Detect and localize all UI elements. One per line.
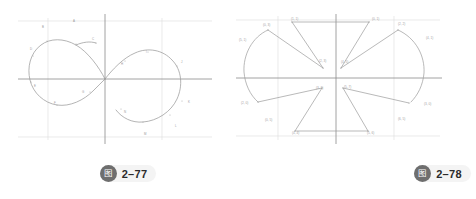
point-label: (1, 1) (291, 17, 298, 21)
point-label: A (73, 19, 75, 23)
point-marker (182, 101, 183, 102)
point-label: D (30, 47, 32, 51)
curve-right-loop (105, 50, 181, 122)
point-label: (0, 1) (372, 17, 379, 21)
wedge-upper-right-arc (398, 30, 424, 102)
point-label: (2, 2) (398, 22, 405, 26)
point-label-group: A B C D E F G H I J K L M N (30, 19, 190, 136)
point-label: (2, 3) (319, 59, 326, 63)
point-marker (322, 67, 323, 68)
point-label: M (144, 132, 147, 136)
point-label: (3, 0) (424, 102, 431, 106)
point-marker (96, 43, 97, 44)
point-marker (125, 61, 126, 62)
point-marker (90, 92, 91, 93)
point-marker (148, 52, 149, 53)
wedge-lower-right-segment-a (343, 88, 368, 131)
point-marker (257, 101, 258, 102)
point-marker (121, 109, 122, 110)
four-wedge-diagram: (1, 1) (0, 1) (2, 3) (4, 5) (2, 2) (0, 3… (228, 0, 457, 152)
point-label: H (121, 62, 123, 66)
wedge-lower-left-segment-b (295, 88, 322, 131)
point-label: L (175, 124, 177, 128)
figure-2-78-caption: 图 2–78 (228, 152, 476, 199)
point-label: B (42, 25, 44, 29)
caption-pill: 图 2–77 (100, 165, 157, 182)
curve-left-loop (29, 40, 105, 106)
figure-2-78-plot: (1, 1) (0, 1) (2, 3) (4, 5) (2, 2) (0, 3… (228, 0, 457, 152)
point-label: (2, 0) (241, 101, 248, 105)
point-label: I (146, 50, 147, 54)
point-label: E (34, 84, 36, 88)
wedge-upper-left-arc (244, 30, 268, 102)
point-label: (5, 1) (239, 38, 246, 42)
point-marker (57, 105, 58, 106)
figure-2-77: A B C D E F G H I J K L M N 图 (0, 0, 228, 199)
point-label: (6, 5) (398, 117, 405, 121)
point-marker (368, 21, 369, 22)
point-marker (47, 41, 48, 42)
figure-2-77-caption: 图 2–77 (0, 152, 242, 199)
figure-badge-icon: 图 (414, 165, 431, 182)
point-label: J (181, 60, 183, 64)
figure-2-77-plot: A B C D E F G H I J K L M N (0, 0, 228, 152)
point-label: (4, 1) (426, 36, 433, 40)
point-markers (31, 41, 183, 123)
point-label: K (188, 100, 190, 104)
point-label: F (54, 101, 56, 105)
point-label: (4, 5) (341, 60, 348, 64)
point-marker (397, 29, 398, 30)
point-marker (340, 67, 341, 68)
axes (236, 14, 442, 144)
point-label: (0, 3) (263, 23, 270, 27)
lemniscate-diagram: A B C D E F G H I J K L M N (0, 0, 228, 152)
point-marker (267, 29, 268, 30)
point-label: (0, 5) (265, 118, 272, 122)
figure-number: 2–78 (431, 168, 462, 180)
point-label: (3, 1) (316, 86, 323, 90)
wedge-upper-right-segment-b (341, 30, 398, 68)
point-marker (408, 102, 409, 103)
axes (18, 14, 212, 144)
caption-pill: 图 2–78 (414, 165, 471, 182)
point-label: (4, 4) (292, 131, 299, 135)
wedge-lower-left-segment-a (258, 88, 322, 102)
point-marker (177, 66, 178, 67)
wedge-shapes (244, 22, 424, 131)
point-label: G (82, 90, 85, 94)
point-label: (5, 6) (367, 131, 374, 135)
point-label: C (92, 37, 94, 41)
curve-left-open-tail (76, 42, 96, 45)
figure-2-78: (1, 1) (0, 1) (2, 3) (4, 5) (2, 2) (0, 3… (228, 0, 457, 199)
point-label: (5, 7) (344, 85, 351, 89)
point-marker (76, 44, 77, 45)
point-marker (143, 122, 144, 123)
point-label: N (124, 110, 126, 114)
point-markers (257, 21, 409, 131)
figure-number: 2–77 (117, 168, 148, 180)
figure-badge-icon: 图 (100, 165, 117, 182)
wedge-lower-right-segment-b (343, 88, 409, 103)
wedge-upper-left-segment-a (268, 30, 323, 68)
point-marker (33, 56, 34, 57)
point-marker (291, 21, 292, 22)
point-marker (170, 115, 171, 116)
point-marker (31, 82, 32, 83)
